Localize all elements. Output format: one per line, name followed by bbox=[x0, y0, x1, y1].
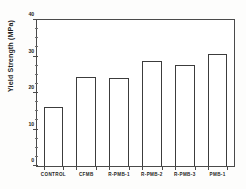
bar bbox=[142, 61, 162, 166]
y-axis-minor-tick bbox=[35, 83, 38, 84]
y-axis-minor-tick bbox=[35, 138, 38, 139]
y-axis-tick-label: 0 bbox=[31, 157, 34, 163]
y-axis-minor-tick bbox=[35, 74, 38, 75]
y-axis-title: Yield Strength (MPa) bbox=[7, 1, 15, 111]
y-axis-minor-tick bbox=[35, 46, 38, 47]
x-axis-tick bbox=[76, 166, 77, 170]
y-axis-minor-tick bbox=[35, 156, 38, 157]
x-axis-tick-label: R-PMB-1 bbox=[108, 172, 130, 177]
x-axis-tick-label: CONTROL bbox=[41, 172, 66, 177]
y-axis-minor-tick bbox=[35, 28, 38, 29]
y-axis-tick-label: 10 bbox=[28, 121, 34, 127]
x-axis-tick bbox=[227, 166, 228, 170]
x-axis-tick bbox=[195, 166, 196, 170]
y-axis-minor-tick bbox=[35, 147, 38, 148]
y-axis-tick bbox=[33, 92, 38, 93]
y-axis-tick-label: 40 bbox=[28, 11, 34, 17]
y-axis-minor-tick bbox=[35, 101, 38, 102]
y-axis-tick-label: 30 bbox=[28, 48, 34, 54]
x-axis-tick bbox=[96, 166, 97, 170]
y-axis-tick bbox=[33, 19, 38, 20]
plot-area: 010203040CONTROLCFMBR-PMB-1R-PMB-2R-PMB-… bbox=[36, 19, 235, 167]
x-axis-tick bbox=[129, 166, 130, 170]
y-axis-minor-tick bbox=[35, 65, 38, 66]
y-axis-minor-tick bbox=[35, 119, 38, 120]
x-axis-tick-label: R-PMB-2 bbox=[141, 172, 163, 177]
bar bbox=[175, 65, 195, 166]
x-axis-tick-label: CFMB bbox=[79, 172, 94, 177]
bar bbox=[76, 77, 96, 166]
x-axis-tick bbox=[175, 166, 176, 170]
bar bbox=[44, 107, 64, 166]
x-axis-tick-label: PMB-1 bbox=[210, 172, 226, 177]
bar bbox=[109, 78, 129, 166]
x-axis-tick-label: R-PMB-3 bbox=[174, 172, 196, 177]
x-axis-tick bbox=[63, 166, 64, 170]
x-axis-tick bbox=[142, 166, 143, 170]
y-axis-minor-tick bbox=[35, 110, 38, 111]
x-axis-tick bbox=[208, 166, 209, 170]
y-axis-minor-tick bbox=[35, 37, 38, 38]
x-axis-tick bbox=[109, 166, 110, 170]
x-axis-tick bbox=[44, 166, 45, 170]
y-axis-tick bbox=[33, 129, 38, 130]
y-axis-tick bbox=[33, 56, 38, 57]
x-axis-tick bbox=[162, 166, 163, 170]
bar-chart-figure: Yield Strength (MPa) 010203040CONTROLCFM… bbox=[0, 0, 246, 189]
y-axis-tick bbox=[33, 165, 38, 166]
bar bbox=[208, 54, 228, 166]
y-axis-tick-label: 20 bbox=[28, 84, 34, 90]
